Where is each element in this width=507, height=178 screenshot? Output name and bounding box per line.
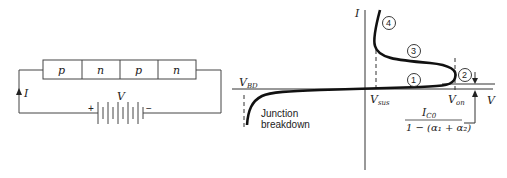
voltage-label: V <box>117 90 126 103</box>
minus-sign: − <box>146 103 152 114</box>
current-arrow-icon <box>16 88 22 95</box>
fraction-numerator: IC0 <box>421 106 437 120</box>
layer-p1: p <box>58 64 65 77</box>
region-2-label: 2 <box>462 70 467 80</box>
region-1-label: 1 <box>411 75 416 85</box>
region-3-label: 3 <box>411 46 416 56</box>
x-axis-label: V <box>487 94 496 107</box>
layer-n1: n <box>97 64 104 77</box>
junction-label-line2: breakdown <box>261 119 310 130</box>
offset-arrow-down-icon <box>472 78 478 84</box>
v-on-label: Von <box>448 93 465 107</box>
current-label: I <box>23 87 29 100</box>
thyristor-diagram: p n p n I V + − 4 3 1 2 I V VBD Vsus Von… <box>0 0 507 178</box>
fraction-denominator: 1 − (α₁ + α₂) <box>406 122 471 133</box>
junction-label-line1: Junction <box>261 108 298 119</box>
offset-arrow-up-icon <box>472 90 478 97</box>
v-sus-label: Vsus <box>370 93 390 107</box>
layer-p2: p <box>135 64 142 77</box>
layer-n2: n <box>173 64 180 77</box>
v-bd-label: VBD <box>239 76 258 90</box>
plus-sign: + <box>88 103 94 114</box>
region-4-label: 4 <box>386 18 391 28</box>
y-axis-label: I <box>354 7 360 20</box>
